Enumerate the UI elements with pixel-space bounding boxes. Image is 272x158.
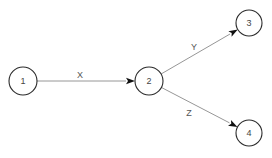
edge-line — [161, 34, 230, 74]
edge-label: Z — [186, 108, 192, 118]
diagram-canvas: XYZ 1234 — [0, 0, 272, 158]
node-label: 2 — [146, 76, 151, 86]
node-1[interactable]: 1 — [9, 67, 37, 95]
edge-1-2[interactable]: X — [37, 70, 135, 84]
node-4[interactable]: 4 — [236, 120, 262, 146]
node-label: 3 — [246, 18, 251, 28]
node-3[interactable]: 3 — [236, 10, 262, 36]
edge-label: Y — [191, 42, 197, 52]
edge-line — [161, 87, 229, 122]
directed-graph: XYZ 1234 — [0, 0, 272, 158]
nodes-layer: 1234 — [9, 10, 262, 146]
node-label: 1 — [20, 76, 25, 86]
edge-2-4[interactable]: Z — [161, 87, 237, 127]
node-label: 4 — [246, 128, 251, 138]
arrowhead-icon — [126, 78, 135, 84]
edge-label: X — [77, 70, 83, 80]
edge-2-3[interactable]: Y — [161, 30, 238, 74]
arrowhead-icon — [228, 120, 237, 127]
node-2[interactable]: 2 — [135, 67, 163, 95]
arrowhead-icon — [228, 30, 237, 37]
